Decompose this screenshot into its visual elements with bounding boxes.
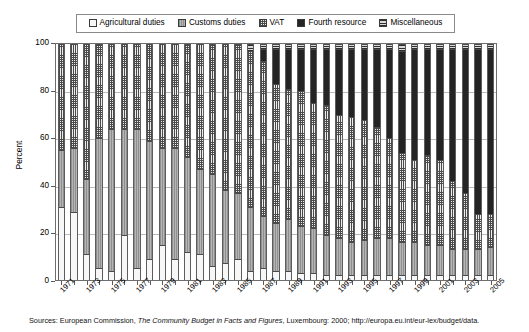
bar-2002 — [449, 44, 456, 280]
bar-segment-vat — [248, 51, 253, 207]
legend-item-misc: Miscellaneous — [379, 19, 442, 27]
bar-segment-customs — [450, 249, 455, 275]
bar-1993 — [335, 44, 342, 280]
bar-segment-agricultural — [210, 266, 215, 280]
bar-segment-agricultural — [122, 235, 127, 280]
bar-1978 — [146, 44, 153, 280]
legend-swatch-vat-icon — [259, 19, 267, 27]
bar-segment-fourth — [311, 49, 316, 103]
bar-segment-customs — [412, 242, 417, 275]
bar-segment-agricultural — [387, 275, 392, 280]
bar-segment-vat — [374, 127, 379, 238]
legend-swatch-customs-icon — [178, 19, 186, 27]
bar-segment-fourth — [475, 49, 480, 214]
bar-segment-customs — [336, 238, 341, 276]
bar-segment-vat — [488, 214, 493, 247]
bar-segment-customs — [235, 193, 240, 259]
bar-segment-fourth — [286, 49, 291, 89]
bar-segment-vat — [96, 44, 101, 138]
y-tick-label: 80 — [19, 86, 49, 95]
bar-segment-customs — [475, 249, 480, 275]
bar-segment-vat — [387, 138, 392, 237]
bar-1999 — [411, 44, 418, 280]
bar-segment-vat — [84, 44, 89, 179]
bar-segment-agricultural — [336, 275, 341, 280]
bar-segment-customs — [59, 150, 64, 207]
legend-item-fourth: Fourth resource — [297, 19, 366, 27]
bar-segment-agricultural — [197, 254, 202, 280]
bar-segment-vat — [412, 160, 417, 243]
bar-1988 — [272, 44, 279, 280]
bar-2000 — [424, 44, 431, 280]
legend-swatch-misc-icon — [379, 19, 387, 27]
legend-label-misc: Miscellaneous — [390, 19, 442, 27]
bar-segment-vat — [71, 44, 76, 148]
bar-segment-vat — [160, 44, 165, 148]
bar-segment-vat — [109, 44, 114, 129]
bar-segment-customs — [172, 148, 177, 259]
y-tick-mark — [51, 138, 55, 139]
legend-item-vat: VAT — [259, 19, 285, 27]
bar-segment-fourth — [298, 49, 303, 91]
source-title: The Community Budget in Facts and Figure… — [138, 316, 283, 325]
bar-segment-customs — [362, 240, 367, 275]
y-tick-mark — [51, 281, 55, 282]
bar-segment-vat — [311, 103, 316, 228]
bar-segment-vat — [273, 84, 278, 223]
bar-segment-vat — [362, 120, 367, 240]
y-tick-mark — [51, 43, 55, 44]
bar-1984 — [222, 44, 229, 280]
x-axis-labels: 1971197319751977197919811983198519871989… — [0, 286, 529, 320]
bar-segment-vat — [235, 44, 240, 193]
bar-segment-vat — [324, 105, 329, 235]
y-axis-title: Percent — [14, 120, 24, 190]
bar-segment-vat — [210, 44, 215, 174]
bar-2004 — [474, 44, 481, 280]
bar-2005 — [487, 44, 494, 280]
bar-1986 — [247, 44, 254, 280]
bar-segment-fourth — [399, 51, 404, 152]
bar-1974 — [95, 44, 102, 280]
bar-segment-vat — [450, 181, 455, 249]
bar-segment-fourth — [425, 49, 430, 155]
bar-segment-agricultural — [311, 273, 316, 280]
bar-segment-vat — [197, 44, 202, 169]
source-suffix: , Luxembourg: 2000; http://europa.eu.int… — [283, 316, 480, 325]
bar-segment-customs — [298, 226, 303, 273]
bar-segment-vat — [261, 61, 266, 217]
bar-group — [56, 44, 496, 280]
bar-1991 — [310, 44, 317, 280]
bar-segment-vat — [286, 89, 291, 219]
bar-segment-vat — [134, 44, 139, 129]
chart-legend: Agricultural dutiesCustoms dutiesVATFour… — [76, 14, 455, 33]
bar-2001 — [436, 44, 443, 280]
bar-1975 — [108, 44, 115, 280]
bar-segment-agricultural — [488, 275, 493, 280]
bar-segment-customs — [185, 157, 190, 251]
bar-segment-fourth — [349, 49, 354, 117]
bar-segment-fourth — [450, 49, 455, 181]
bar-1997 — [386, 44, 393, 280]
bar-segment-fourth — [261, 49, 266, 61]
bar-1977 — [133, 44, 140, 280]
bar-1981 — [184, 44, 191, 280]
bar-1979 — [159, 44, 166, 280]
bar-segment-vat — [59, 44, 64, 150]
bar-segment-vat — [437, 160, 442, 245]
bar-segment-fourth — [488, 49, 493, 214]
bar-segment-customs — [84, 179, 89, 255]
bar-segment-customs — [248, 207, 253, 271]
bar-segment-agricultural — [71, 212, 76, 280]
bar-segment-customs — [349, 242, 354, 275]
bar-segment-agricultural — [185, 252, 190, 280]
legend-label-vat: VAT — [270, 19, 285, 27]
legend-label-customs: Customs duties — [189, 19, 245, 27]
bar-segment-customs — [147, 141, 152, 259]
bar-1995 — [361, 44, 368, 280]
bar-segment-customs — [437, 245, 442, 276]
bar-segment-customs — [210, 174, 215, 266]
bar-segment-customs — [425, 245, 430, 276]
bar-1983 — [209, 44, 216, 280]
bar-segment-fourth — [374, 49, 379, 127]
bar-segment-customs — [273, 223, 278, 270]
